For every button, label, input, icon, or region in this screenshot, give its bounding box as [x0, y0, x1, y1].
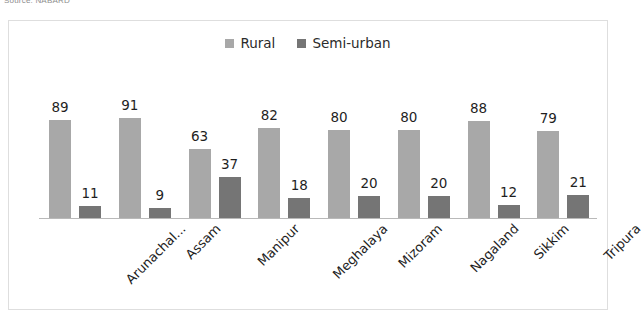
bar-value-label: 20: [360, 177, 377, 191]
bar-rect: [358, 196, 380, 218]
bar-rect: [428, 196, 450, 218]
bar-rect: [328, 130, 350, 218]
bar-value-label: 89: [51, 101, 68, 115]
bar-rect: [119, 118, 141, 218]
bar-value-label: 88: [470, 102, 487, 116]
legend-label: Rural: [240, 35, 275, 51]
bar-rect: [468, 121, 490, 218]
baseline-axis: [39, 218, 597, 219]
bar-value-label: 11: [81, 187, 98, 201]
plot-area: 8911919633782188020802088127921: [39, 67, 597, 219]
category-label-arunachal: Arunachal...: [123, 221, 189, 287]
legend-label: Semi-urban: [312, 35, 390, 51]
category-label-tripura: Tripura: [601, 221, 643, 263]
category-label-meghalaya: Meghalaya: [330, 221, 391, 282]
bar-value-label: 79: [540, 112, 557, 126]
bar-group: 919: [109, 66, 179, 218]
bar-group: 8218: [248, 66, 318, 218]
source-caption: Source: NABARD: [4, 0, 70, 5]
bar-group: 8812: [458, 66, 528, 218]
bar-group: 7921: [527, 66, 597, 218]
legend-entry-rural: Rural: [225, 35, 275, 51]
category-label-nagaland: Nagaland: [467, 221, 521, 275]
bar-value-label: 82: [261, 109, 278, 123]
bar-rect: [219, 177, 241, 218]
bar-value-label: 80: [400, 111, 417, 125]
bar-group: 6337: [179, 66, 249, 218]
bar-value-label: 37: [221, 158, 238, 172]
bar-value-label: 9: [155, 189, 164, 203]
bar-rect: [398, 130, 420, 218]
bar-rect: [498, 205, 520, 218]
category-label-assam: Assam: [182, 221, 223, 262]
bar-value-label: 12: [500, 186, 517, 200]
bar-value-label: 21: [570, 176, 587, 190]
bar-rect: [288, 198, 310, 218]
bar-rect: [49, 120, 71, 218]
bar-rect: [149, 208, 171, 218]
bar-value-label: 18: [291, 179, 308, 193]
category-label-mizoram: Mizoram: [395, 221, 445, 271]
category-axis: Arunachal...AssamManipurMeghalayaMizoram…: [39, 221, 597, 300]
legend-swatch-icon: [225, 39, 234, 48]
legend-swatch-icon: [297, 39, 306, 48]
bar-value-label: 20: [430, 177, 447, 191]
bar-rect: [258, 128, 280, 218]
category-label-manipur: Manipur: [255, 221, 303, 269]
chart-legend: RuralSemi-urban: [9, 35, 607, 51]
bar-value-label: 80: [330, 111, 347, 125]
bar-rect: [537, 131, 559, 218]
bar-group: 8020: [318, 66, 388, 218]
bar-rect: [79, 206, 101, 218]
category-label-sikkim: Sikkim: [531, 221, 572, 262]
chart-frame: RuralSemi-urban 891191963378218802080208…: [8, 20, 608, 310]
bar-value-label: 63: [191, 130, 208, 144]
bar-group: 8020: [388, 66, 458, 218]
bar-rect: [567, 195, 589, 218]
bar-rect: [189, 149, 211, 218]
legend-entry-semi-urban: Semi-urban: [297, 35, 390, 51]
bar-value-label: 91: [121, 99, 138, 113]
bar-group: 8911: [39, 66, 109, 218]
